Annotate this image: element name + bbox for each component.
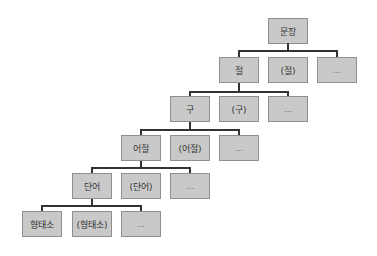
node-clause-more: … xyxy=(317,57,357,83)
node-phrase-more: … xyxy=(268,96,308,122)
node-word: 단어 xyxy=(72,173,112,199)
connector xyxy=(189,91,289,93)
connector xyxy=(140,129,240,131)
node-clause: 절 xyxy=(219,57,259,83)
node-morpheme-more: … xyxy=(121,211,161,237)
connector xyxy=(91,167,191,169)
node-word-more: … xyxy=(170,173,210,199)
node-word-alt: (단어) xyxy=(121,173,161,199)
node-morpheme-alt: (형태소) xyxy=(72,211,112,237)
node-clause-alt: (절) xyxy=(268,57,308,83)
connector xyxy=(238,50,338,52)
connector xyxy=(41,205,142,207)
node-morpheme: 형태소 xyxy=(22,211,62,237)
node-eojeol-alt: (어절) xyxy=(170,135,210,161)
node-phrase-alt: (구) xyxy=(219,96,259,122)
node-phrase: 구 xyxy=(170,96,210,122)
node-eojeol: 어절 xyxy=(121,135,161,161)
node-sentence: 문장 xyxy=(268,18,308,44)
node-eojeol-more: … xyxy=(219,135,259,161)
